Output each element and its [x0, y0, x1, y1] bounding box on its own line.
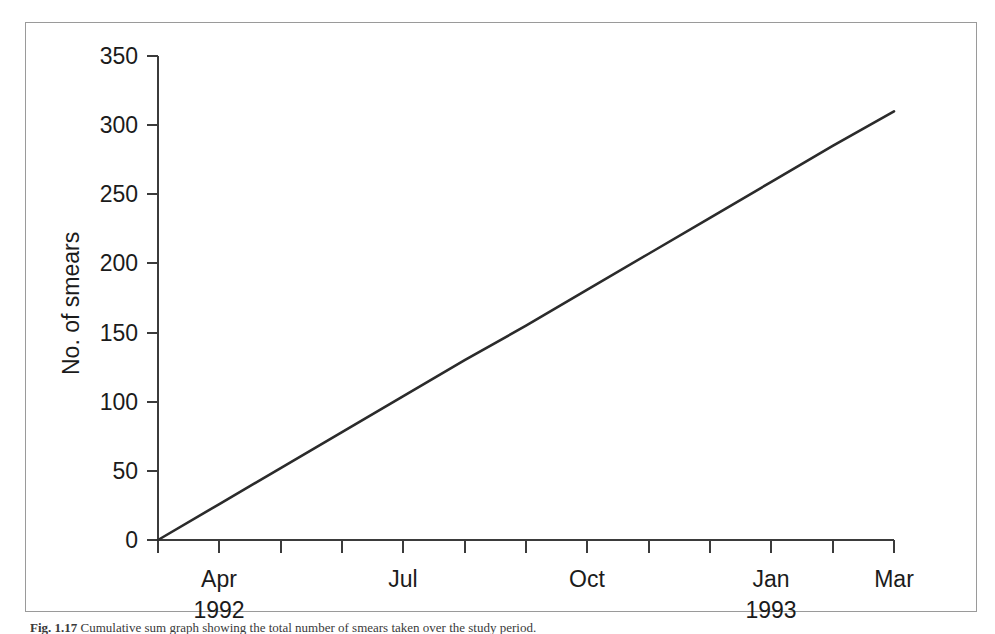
- x-tick-label-jan: Jan: [752, 566, 789, 593]
- x-tick-label-apr: Apr: [201, 566, 237, 593]
- figure-caption-text: Cumulative sum graph showing the total n…: [81, 620, 537, 634]
- line-chart-canvas: [26, 23, 978, 613]
- figure-caption-label: Fig. 1.17: [30, 620, 77, 634]
- figure-caption: Fig. 1.17 Cumulative sum graph showing t…: [30, 620, 970, 634]
- x-tick-label-mar: Mar: [874, 566, 914, 593]
- y-tick-label-100: 100: [70, 389, 138, 416]
- chart-plot-area: 350 300 250 200 150 100 50 0 No. of smea…: [26, 23, 978, 613]
- y-tick-label-350: 350: [70, 43, 138, 70]
- y-tick-label-300: 300: [70, 112, 138, 139]
- x-tick-label-oct: Oct: [569, 566, 605, 593]
- x-tick-label-jul: Jul: [388, 566, 417, 593]
- x-axis-ticks: [158, 540, 894, 553]
- y-axis-ticks: [147, 56, 158, 540]
- y-tick-label-0: 0: [70, 527, 138, 554]
- y-tick-label-250: 250: [70, 181, 138, 208]
- figure-frame: 350 300 250 200 150 100 50 0 No. of smea…: [25, 22, 977, 612]
- y-axis-title: No. of smears: [58, 232, 85, 375]
- y-tick-label-50: 50: [70, 458, 138, 485]
- data-series-line: [158, 111, 894, 540]
